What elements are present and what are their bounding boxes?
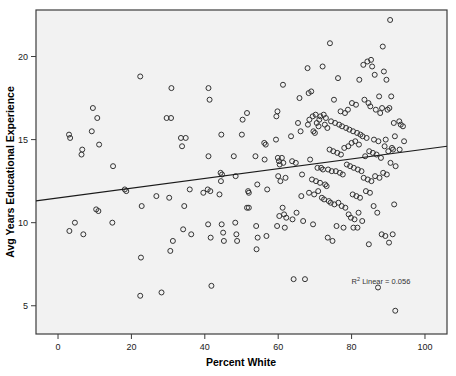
chart-canvas: 020406080100 5101520 R2 Linear = 0.056 P… <box>0 0 456 376</box>
y-tick-label: 10 <box>18 218 28 228</box>
x-tick-label: 40 <box>200 342 210 352</box>
x-tick-label: 0 <box>56 342 61 352</box>
scatter-plot-figure: 020406080100 5101520 R2 Linear = 0.056 P… <box>0 0 456 376</box>
x-tick-label: 60 <box>273 342 283 352</box>
y-tick-label: 20 <box>18 52 28 62</box>
x-tick-label: 20 <box>126 342 136 352</box>
x-tick-label: 100 <box>417 342 432 352</box>
y-tick-label: 5 <box>23 301 28 311</box>
y-axis-title: Avg Years Educational Experience <box>4 86 16 258</box>
r2-annotation: R2 Linear = 0.056 <box>352 276 411 286</box>
x-tick-label: 80 <box>347 342 357 352</box>
x-axis-title: Percent White <box>206 356 276 368</box>
r2-text: Linear = 0.056 <box>360 277 410 286</box>
y-tick-label: 15 <box>18 135 28 145</box>
